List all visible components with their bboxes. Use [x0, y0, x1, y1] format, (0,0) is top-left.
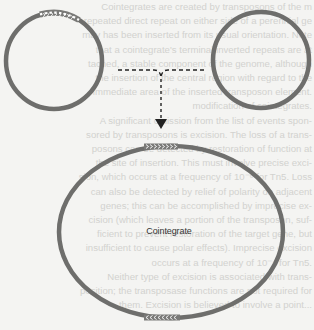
cointegrate-label: Cointegrate	[130, 226, 208, 236]
donor-plasmid-ring	[6, 13, 102, 109]
fusion-arrow	[118, 70, 204, 129]
fusion-arrow-right-branch	[161, 70, 204, 79]
cointegrate-diagram	[0, 0, 314, 330]
target-plasmid	[213, 12, 309, 108]
donor-plasmid	[6, 13, 102, 109]
arrow-down-icon	[155, 119, 167, 129]
target-plasmid-ring	[213, 12, 309, 108]
fusion-arrow-left-branch	[118, 70, 161, 79]
